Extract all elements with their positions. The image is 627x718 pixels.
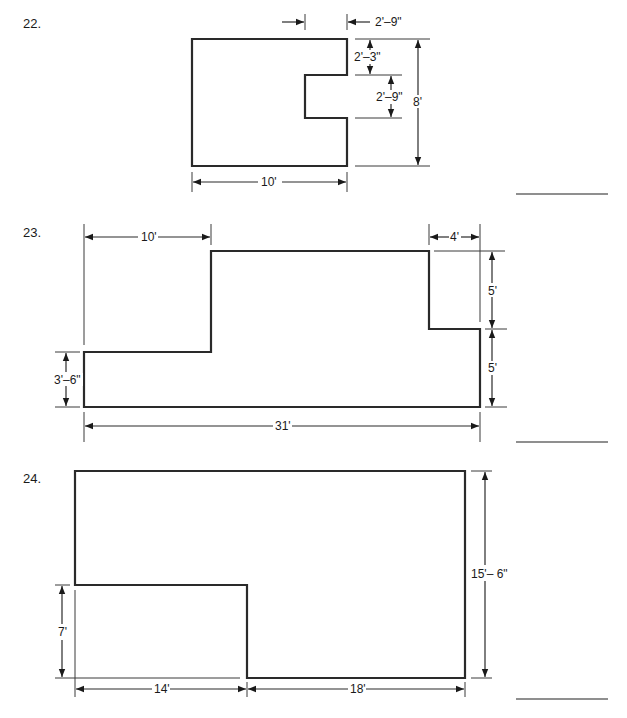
dimension-left-height: 3'–6" bbox=[53, 352, 83, 407]
dimension-notch-height: 2'–9" bbox=[375, 76, 411, 117]
dimension-label: 2'–9" bbox=[375, 15, 402, 29]
dimension-label: 8' bbox=[413, 95, 422, 109]
dimension-label: 3'–6" bbox=[54, 373, 81, 387]
dimension-label: 10' bbox=[261, 175, 277, 189]
dimension-label: 2'–9" bbox=[376, 90, 403, 104]
problem-number: 22. bbox=[23, 16, 41, 31]
dimension-label: 15'– 6" bbox=[471, 567, 508, 581]
dimension-total-height: 15'– 6" bbox=[470, 471, 508, 678]
dimension-label: 14' bbox=[154, 682, 170, 696]
dimension-notch-top: 2'–3" bbox=[353, 40, 389, 74]
worksheet-canvas: 22. 2'–9" 2'–3" 2'–9" bbox=[0, 0, 627, 718]
problem-number: 23. bbox=[23, 225, 41, 240]
dimension-top-offset: 2'–9" bbox=[282, 14, 402, 30]
problem-23: 23. 10' 4' 5' bbox=[23, 224, 608, 442]
dimension-total-height: 8' bbox=[413, 40, 422, 165]
dimension-label: 18' bbox=[350, 682, 366, 696]
floor-plan-shape bbox=[84, 251, 480, 407]
dimension-total-width: 31' bbox=[84, 412, 480, 442]
dimension-label: 4' bbox=[450, 230, 459, 244]
problem-24: 24. 7' 14' 18' bbox=[23, 471, 608, 699]
dimension-right-lower-height: 5' bbox=[488, 330, 497, 406]
dimension-left-top-width: 10' bbox=[84, 224, 211, 345]
problem-number: 24. bbox=[23, 471, 41, 486]
dimension-right-step-width: 4' bbox=[429, 224, 480, 322]
dimension-label: 31' bbox=[275, 419, 291, 433]
dimension-label: 10' bbox=[141, 230, 157, 244]
dimension-width: 10' bbox=[192, 172, 347, 192]
dimension-left-width: 14' bbox=[76, 682, 247, 697]
problem-22: 22. 2'–9" 2'–3" 2'–9" bbox=[23, 14, 608, 194]
dimension-right-width: 18' bbox=[248, 682, 465, 697]
dimension-label: 7' bbox=[58, 625, 67, 639]
dimension-label: 5' bbox=[488, 361, 497, 375]
floor-plan-shape bbox=[192, 39, 347, 166]
dimension-left-lower-height: 7' bbox=[58, 586, 67, 677]
dimension-right-upper-height: 5' bbox=[488, 252, 497, 328]
dimension-label: 2'–3" bbox=[354, 50, 381, 64]
dimension-label: 5' bbox=[488, 284, 497, 298]
floor-plan-shape bbox=[75, 471, 465, 678]
